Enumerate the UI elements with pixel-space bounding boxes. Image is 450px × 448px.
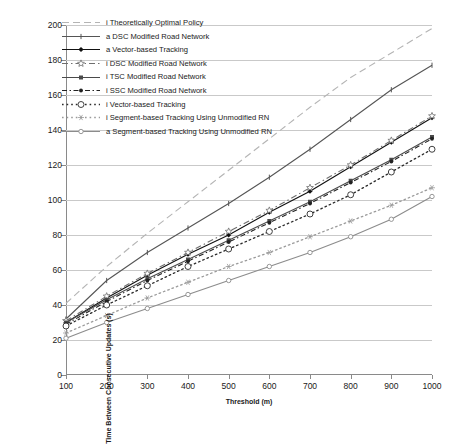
data-point-marker <box>307 211 313 217</box>
x-axis-tick <box>391 375 392 379</box>
legend-key-icon <box>60 30 102 43</box>
x-axis-tick-label: 400 <box>181 381 195 391</box>
legend-key-icon <box>60 57 102 70</box>
legend-key-icon <box>60 84 102 97</box>
legend-key-icon <box>60 111 102 124</box>
x-axis-tick-label: 600 <box>262 381 276 391</box>
legend-key-icon <box>60 125 102 138</box>
legend-key-icon <box>60 16 102 29</box>
data-point-marker <box>186 292 190 296</box>
legend-item-1[interactable]: a DSC Modified Road Network <box>60 30 272 44</box>
series-6 <box>63 146 435 329</box>
series-7 <box>63 185 435 335</box>
y-axis-tick-label: 100 <box>48 195 62 205</box>
y-axis-tick-label: 0 <box>57 370 62 380</box>
legend-item-label: i Segment-based Tracking Using Unmodifie… <box>106 114 269 122</box>
legend-key-icon <box>60 98 102 111</box>
data-point-marker <box>63 323 69 329</box>
x-axis-tick <box>269 375 270 379</box>
series-line <box>66 188 432 333</box>
x-axis-tick-label: 900 <box>384 381 398 391</box>
data-point-marker <box>267 264 271 268</box>
data-point-marker <box>145 306 149 310</box>
legend-item-8[interactable]: a Segment-based Tracking Using Unmodifie… <box>60 125 272 139</box>
data-point-marker <box>185 280 191 285</box>
x-axis-tick-label: 800 <box>344 381 358 391</box>
legend-item-label: i DSC Modified Road Network <box>106 60 207 68</box>
data-point-marker <box>226 278 230 282</box>
legend-item-label: i Theoretically Optimal Policy <box>106 19 203 27</box>
series-8 <box>64 194 434 340</box>
y-axis-tick-label: 40 <box>53 300 62 310</box>
x-axis-tick <box>66 375 67 379</box>
data-point-marker <box>144 295 150 300</box>
y-axis-tick-label: 80 <box>53 230 62 240</box>
data-point-marker <box>348 218 354 223</box>
data-point-marker <box>429 146 435 152</box>
x-axis-tick-label: 100 <box>59 381 73 391</box>
x-axis-tick-label: 1000 <box>423 381 442 391</box>
legend-item-label: i SSC Modified Road Network <box>106 87 206 95</box>
data-point-marker <box>63 330 69 335</box>
data-point-marker <box>266 229 272 235</box>
chart-legend: i Theoretically Optimal Policya DSC Modi… <box>60 16 272 138</box>
legend-item-label: a DSC Modified Road Network <box>106 33 209 41</box>
data-point-marker <box>145 279 149 283</box>
legend-item-6[interactable]: i Vector-based Tracking <box>60 98 272 112</box>
legend-item-3[interactable]: i DSC Modified Road Network <box>60 57 272 71</box>
x-axis-tick <box>351 375 352 379</box>
legend-item-2[interactable]: a Vector-based Tracking <box>60 43 272 57</box>
legend-key-icon <box>60 71 102 84</box>
legend-key-icon <box>60 43 102 56</box>
data-point-marker <box>226 264 232 269</box>
x-axis-tick <box>432 375 433 379</box>
data-point-marker <box>389 217 393 221</box>
data-point-marker <box>389 160 393 164</box>
y-axis-tick-labels: 020406080100120140160180200 <box>0 25 62 375</box>
data-point-marker <box>227 240 231 244</box>
y-axis-tick-label: 120 <box>48 160 62 170</box>
data-point-marker <box>64 336 68 340</box>
legend-item-0[interactable]: i Theoretically Optimal Policy <box>60 16 272 30</box>
x-axis-tick-label: 700 <box>303 381 317 391</box>
data-point-marker <box>430 194 434 198</box>
data-point-marker <box>226 246 232 252</box>
legend-item-7[interactable]: i Segment-based Tracking Using Unmodifie… <box>60 111 272 125</box>
x-axis-title: Threshold (m) <box>66 398 432 405</box>
series-line <box>66 197 432 339</box>
x-axis-tick <box>229 375 230 379</box>
data-point-marker <box>307 234 313 239</box>
data-point-marker <box>388 203 394 208</box>
x-axis-tick <box>310 375 311 379</box>
x-axis-tick-label: 300 <box>140 381 154 391</box>
data-point-marker <box>266 250 272 255</box>
y-axis-tick-label: 60 <box>53 265 62 275</box>
series-line <box>66 149 432 326</box>
legend-item-label: i TSC Modified Road Network <box>106 73 206 81</box>
data-point-marker <box>429 185 435 190</box>
data-point-marker <box>348 235 352 239</box>
data-point-marker <box>308 250 312 254</box>
data-point-marker <box>388 169 394 175</box>
x-axis-tick <box>147 375 148 379</box>
legend-item-4[interactable]: i TSC Modified Road Network <box>60 70 272 84</box>
legend-item-label: a Vector-based Tracking <box>106 46 188 54</box>
legend-item-label: a Segment-based Tracking Using Unmodifie… <box>106 128 272 136</box>
data-point-marker <box>349 181 353 185</box>
x-axis-tick-label: 500 <box>222 381 236 391</box>
x-axis-tick-labels: 1002003004005006007008009001000 <box>66 381 432 395</box>
data-point-marker <box>267 221 271 225</box>
x-axis-tick <box>188 375 189 379</box>
y-axis-title: Time Between Consecutive Updates (s) <box>105 289 112 448</box>
legend-item-label: i Vector-based Tracking <box>106 101 185 109</box>
series-4 <box>64 135 434 325</box>
data-point-marker <box>308 202 312 206</box>
data-point-marker <box>430 137 434 141</box>
series-5 <box>64 137 434 326</box>
data-point-marker <box>348 192 354 198</box>
legend-item-5[interactable]: i SSC Modified Road Network <box>60 84 272 98</box>
data-point-marker <box>144 283 150 289</box>
y-axis-tick-label: 20 <box>53 335 62 345</box>
data-point-marker <box>186 259 190 263</box>
